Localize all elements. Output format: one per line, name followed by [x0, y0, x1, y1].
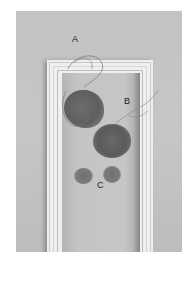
photograph: A B C: [16, 11, 182, 252]
threads: [16, 11, 182, 252]
label-c: C: [97, 181, 104, 190]
label-b: B: [124, 97, 130, 106]
label-a: A: [72, 35, 78, 44]
